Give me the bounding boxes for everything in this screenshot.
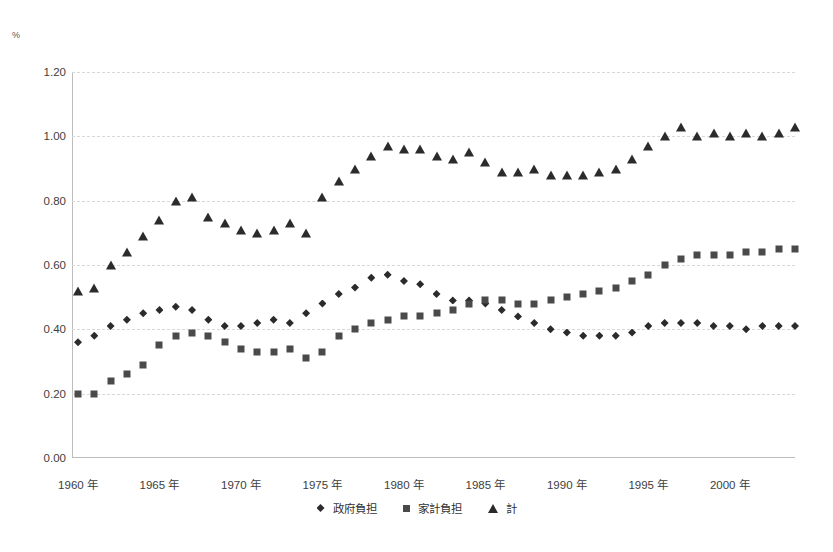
x-axis-tick-label: 1965 年 (124, 476, 194, 492)
data-point (497, 167, 507, 176)
x-axis-tick-label: 1980 年 (369, 476, 439, 492)
x-axis-tick-label: 1990 年 (532, 476, 602, 492)
gridline (72, 72, 795, 73)
data-point (91, 390, 98, 397)
data-point (237, 345, 244, 352)
y-axis-tick-label: 0.80 (20, 195, 66, 207)
data-point (203, 212, 213, 221)
data-point (433, 310, 440, 317)
data-point (171, 196, 181, 205)
data-point (317, 193, 327, 202)
triangle-marker-icon (488, 504, 498, 513)
gridline (72, 265, 795, 266)
gridline (72, 394, 795, 395)
data-point (350, 164, 360, 173)
data-point (677, 319, 685, 327)
data-point (286, 319, 294, 327)
data-point (676, 122, 686, 131)
data-point (416, 280, 424, 288)
data-point (204, 316, 212, 324)
data-point (449, 307, 456, 314)
x-axis-tick-label: 1975 年 (287, 476, 357, 492)
data-point (155, 306, 163, 314)
legend-item-household: 家計負担 (403, 500, 462, 516)
data-point (367, 274, 375, 282)
data-point (547, 297, 554, 304)
legend-label-government: 政府負担 (333, 500, 377, 516)
data-point (254, 348, 261, 355)
data-point (529, 164, 539, 173)
data-point (725, 132, 735, 141)
data-point (285, 219, 295, 228)
data-point (303, 355, 310, 362)
data-point (514, 312, 522, 320)
data-point (351, 284, 359, 292)
data-point (449, 296, 457, 304)
data-point (660, 132, 670, 141)
data-point (172, 303, 180, 311)
data-point (156, 342, 163, 349)
diamond-marker-icon (317, 504, 325, 512)
y-axis-tick-label: 0.60 (20, 259, 66, 271)
data-point (627, 154, 637, 163)
data-point (139, 309, 147, 317)
data-point (579, 332, 587, 340)
data-point (775, 245, 782, 252)
data-point (399, 145, 409, 154)
data-point (236, 225, 246, 234)
data-point (187, 193, 197, 202)
data-point (661, 262, 668, 269)
data-point (692, 132, 702, 141)
data-point (693, 319, 701, 327)
data-point (269, 225, 279, 234)
data-point (611, 164, 621, 173)
data-point (366, 151, 376, 160)
data-point (629, 278, 636, 285)
data-point (270, 348, 277, 355)
data-point (562, 170, 572, 179)
data-point (270, 316, 278, 324)
data-point (90, 332, 98, 340)
data-point (432, 151, 442, 160)
data-point (302, 309, 310, 317)
data-point (742, 325, 750, 333)
x-axis-tick-label: 1960 年 (43, 476, 113, 492)
chart-root: % 1.201.000.800.600.400.200.001960 年1965… (0, 0, 833, 552)
data-point (252, 228, 262, 237)
data-point (172, 332, 179, 339)
data-point (578, 170, 588, 179)
data-point (384, 271, 392, 279)
data-point (448, 154, 458, 163)
data-point (709, 129, 719, 138)
data-point (743, 249, 750, 256)
data-point (547, 325, 555, 333)
data-point (595, 332, 603, 340)
data-point (220, 219, 230, 228)
data-point (498, 297, 505, 304)
x-axis-tick-label: 1985 年 (450, 476, 520, 492)
data-point (205, 332, 212, 339)
data-point (189, 329, 196, 336)
data-point (790, 122, 800, 131)
data-point (122, 248, 132, 257)
data-point (643, 141, 653, 150)
data-point (594, 167, 604, 176)
data-point (612, 332, 620, 340)
data-point (759, 249, 766, 256)
y-axis-tick-label: 0.40 (20, 323, 66, 335)
data-point (464, 148, 474, 157)
data-point (253, 319, 261, 327)
gridline (72, 136, 795, 137)
data-point (498, 306, 506, 314)
data-point (580, 290, 587, 297)
data-point (415, 145, 425, 154)
data-point (301, 228, 311, 237)
data-point (138, 232, 148, 241)
data-point (368, 319, 375, 326)
data-point (106, 261, 116, 270)
data-point (757, 132, 767, 141)
data-point (123, 371, 130, 378)
plot-area (72, 72, 795, 458)
data-point (74, 338, 82, 346)
square-marker-icon (403, 505, 410, 512)
